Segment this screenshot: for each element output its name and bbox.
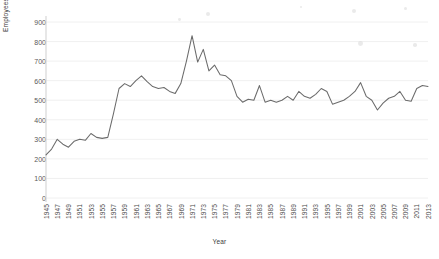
x-tick-label: 1959 xyxy=(121,204,128,219)
x-tick-label: 1973 xyxy=(200,204,207,219)
scan-speck xyxy=(206,12,210,16)
x-tick-label: 1993 xyxy=(312,204,319,219)
x-tick-label: 1971 xyxy=(189,204,196,219)
x-tick-label: 2013 xyxy=(425,204,432,219)
x-tick-label: 1957 xyxy=(110,204,117,219)
x-axis-title: Year xyxy=(0,238,439,245)
x-tick-label: 1991 xyxy=(301,204,308,219)
x-tick-label: 1951 xyxy=(76,204,83,219)
x-tick-label: 1981 xyxy=(245,204,252,219)
x-tick-label: 1961 xyxy=(133,204,140,219)
x-tick-label: 1953 xyxy=(88,204,95,219)
x-tick-label: 1985 xyxy=(267,204,274,219)
x-tick-label: 1963 xyxy=(144,204,151,219)
x-tick-label: 1949 xyxy=(65,204,72,219)
x-tick-label: 1955 xyxy=(99,204,106,219)
x-tick-label: 1975 xyxy=(211,204,218,219)
scan-speck xyxy=(413,43,417,47)
x-tick-label: 1979 xyxy=(234,204,241,219)
x-tick-label: 1977 xyxy=(222,204,229,219)
x-tick-label: 2007 xyxy=(391,204,398,219)
x-tick-label: 1947 xyxy=(54,204,61,219)
x-tick-label: 1965 xyxy=(155,204,162,219)
scan-speck xyxy=(358,41,363,46)
x-tick-label: 1969 xyxy=(178,204,185,219)
x-axis-tick-labels: 1945194719491951195319551957195919611963… xyxy=(0,0,439,259)
x-tick-label: 1967 xyxy=(166,204,173,219)
x-tick-label: 2001 xyxy=(357,204,364,219)
x-tick-label: 1987 xyxy=(279,204,286,219)
x-tick-label: 1983 xyxy=(256,204,263,219)
x-tick-label: 2011 xyxy=(413,204,420,219)
x-tick-label: 2009 xyxy=(402,204,409,219)
x-tick-label: 1997 xyxy=(335,204,342,219)
x-tick-label: 1945 xyxy=(43,204,50,219)
x-tick-label: 1995 xyxy=(324,204,331,219)
x-tick-label: 2005 xyxy=(380,204,387,219)
x-tick-label: 2003 xyxy=(369,204,376,219)
scan-speck xyxy=(178,18,181,21)
employees-line-chart: Employees 0100200300400500600700800900 1… xyxy=(0,0,439,259)
x-tick-label: 1989 xyxy=(290,204,297,219)
x-tick-label: 1999 xyxy=(346,204,353,219)
